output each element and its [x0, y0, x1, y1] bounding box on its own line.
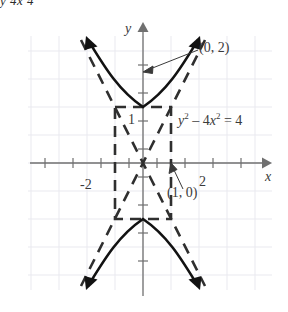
lower-left-arrow-icon — [85, 276, 98, 290]
equation-equals-4: = 4 — [220, 113, 242, 128]
y-axis-arrow-icon — [138, 22, 149, 32]
y-tick-label-1: 1 — [128, 113, 135, 127]
x-axis-label: x — [265, 170, 271, 184]
hyperbola-graph-svg — [0, 0, 288, 312]
leader-line-vertex — [150, 50, 198, 69]
curve-equation-label: y2 – 4x2 = 4 — [178, 112, 242, 128]
leader-arrow-vertex-icon — [143, 66, 153, 74]
equation-minus-4: – 4 — [189, 113, 210, 128]
x-tick-label-2: 2 — [199, 175, 206, 189]
y-axis-label: y — [125, 22, 131, 36]
hyperbola-figure: y x -2 2 1 (0, 2) (1, 0) y2 – 4x2 = 4 — [0, 0, 288, 312]
x-tick-label-neg2: -2 — [80, 178, 92, 192]
upper-left-arrow-icon — [85, 36, 98, 50]
leader-arrow-corner-icon — [169, 163, 177, 174]
point-label-vertex: (0, 2) — [199, 41, 229, 55]
lower-right-arrow-icon — [189, 276, 202, 290]
x-axis-arrow-icon — [262, 158, 272, 169]
point-label-corner: (1, 0) — [167, 186, 197, 200]
